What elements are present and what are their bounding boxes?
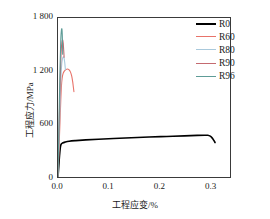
series-line-r0	[58, 135, 215, 177]
y-tick-minor	[57, 152, 58, 153]
legend-item-r96: R96	[196, 71, 235, 82]
legend: R0R60R80R90R96	[196, 18, 235, 82]
stress-strain-chart: 工程应力/MPa 06001 2001 800 0.00.10.20.3 工程应…	[0, 0, 270, 219]
legend-item-r80: R80	[196, 44, 235, 55]
y-tick-major	[57, 125, 58, 126]
legend-label: R90	[219, 58, 235, 68]
x-tick-label: 0.0	[42, 182, 72, 191]
y-tick-major	[57, 72, 58, 73]
y-tick-label: 1 200	[33, 66, 53, 75]
y-tick-minor	[57, 45, 58, 46]
legend-item-r0: R0	[196, 18, 235, 29]
legend-swatch-r96	[196, 76, 216, 77]
x-axis-title: 工程应变/%	[0, 198, 270, 211]
legend-label: R60	[219, 32, 235, 42]
legend-swatch-r80	[196, 49, 216, 50]
legend-swatch-r90	[196, 63, 216, 64]
y-axis-title: 工程应力/MPa	[23, 82, 36, 138]
x-tick-label: 0.1	[93, 182, 123, 191]
y-tick-major	[57, 18, 58, 19]
x-tick-minor	[84, 177, 85, 178]
x-tick-major	[58, 177, 59, 178]
x-tick-major	[212, 177, 213, 178]
legend-label: R96	[219, 71, 235, 81]
y-tick-minor	[57, 99, 58, 100]
legend-item-r90: R90	[196, 58, 235, 69]
legend-swatch-r60	[196, 36, 216, 37]
legend-swatch-r0	[196, 23, 216, 25]
y-tick-label: 600	[40, 119, 54, 128]
x-tick-minor	[135, 177, 136, 178]
x-tick-minor	[186, 177, 187, 178]
legend-item-r60: R60	[196, 31, 235, 42]
x-tick-major	[160, 177, 161, 178]
y-tick-label: 1 800	[33, 12, 53, 21]
x-tick-major	[109, 177, 110, 178]
x-tick-label: 0.2	[144, 182, 174, 191]
x-tick-label: 0.3	[196, 182, 226, 191]
legend-label: R80	[219, 45, 235, 55]
legend-label: R0	[219, 19, 230, 29]
